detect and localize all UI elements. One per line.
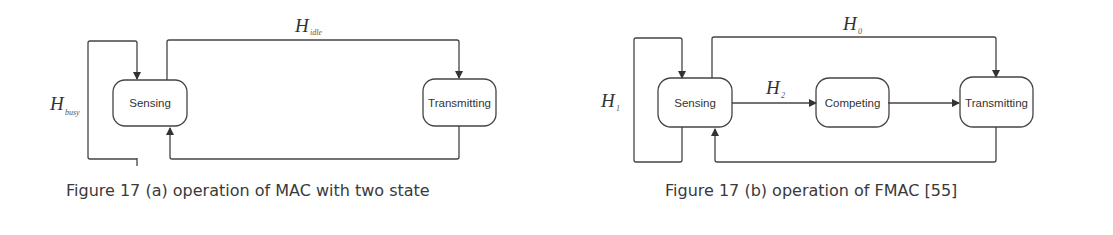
svg-text:H: H xyxy=(49,93,65,114)
state-transmitting-a-label: Transmitting xyxy=(428,97,491,109)
h0-arrow xyxy=(712,37,996,78)
label-h-idle: H idle xyxy=(294,15,322,37)
svg-text:2: 2 xyxy=(781,91,785,100)
svg-text:0: 0 xyxy=(858,27,862,36)
svg-text:H: H xyxy=(294,15,310,36)
svg-text:H: H xyxy=(765,77,781,98)
caption-figure-a: Figure 17 (a) operation of MAC with two … xyxy=(66,181,430,200)
svg-text:H: H xyxy=(600,90,616,111)
idle-arrow xyxy=(167,40,459,80)
return-arrow xyxy=(170,126,459,159)
label-h2: H 2 xyxy=(765,77,785,100)
return-arrow-b xyxy=(715,127,996,162)
state-sensing-a-label: Sensing xyxy=(129,97,171,109)
state-sensing-b-label: Sensing xyxy=(674,97,716,109)
label-h0: H 0 xyxy=(842,13,862,36)
caption-figure-b: Figure 17 (b) operation of FMAC [55] xyxy=(665,181,957,200)
svg-text:busy: busy xyxy=(65,108,80,117)
svg-text:idle: idle xyxy=(310,28,322,37)
svg-text:1: 1 xyxy=(616,104,620,113)
state-transmitting-b-label: Transmitting xyxy=(965,97,1028,109)
svg-text:H: H xyxy=(842,13,858,34)
label-h1: H 1 xyxy=(600,90,620,113)
state-competing-label: Competing xyxy=(825,97,881,109)
label-h-busy: H busy xyxy=(49,93,80,117)
